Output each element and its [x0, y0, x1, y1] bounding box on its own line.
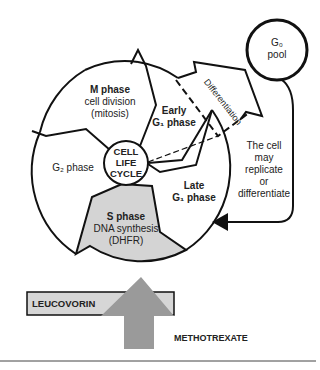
early-g1-line-2: G₁ phase [148, 117, 200, 129]
methotrexate-label: METHOTREXATE [174, 332, 248, 344]
side-note-line-1: The cell [236, 140, 292, 152]
g2-phase-label: G₂ phase [48, 162, 98, 174]
side-note: The cell may replicate or differentiate [236, 140, 292, 200]
s-phase-line-2: (DHFR) [90, 235, 162, 247]
early-g1-label: Early G₁ phase [148, 105, 200, 129]
center-label-line-1: CELL [108, 146, 144, 157]
late-g1-line-2: G₁ phase [168, 192, 220, 204]
return-arrowhead-icon [212, 213, 228, 231]
m-phase-title: M phase [70, 84, 150, 96]
s-phase-line-1: DNA synthesis [90, 223, 162, 235]
outer-cycle-ring [85, 61, 138, 70]
m-phase-line-1: cell division [70, 96, 150, 108]
side-note-line-3: replicate [236, 164, 292, 176]
side-note-line-5: differentiate [236, 188, 292, 200]
center-label-line-3: CYCLE [108, 168, 144, 179]
side-note-line-2: may [236, 152, 292, 164]
s-phase-label: S phase DNA synthesis (DHFR) [90, 211, 162, 247]
side-note-line-4: or [236, 176, 292, 188]
g0-pool-label: G₀ pool [257, 37, 297, 61]
m-phase-line-2: (mitosis) [70, 108, 150, 120]
leucovorin-label: LEUCOVORIN [32, 298, 95, 310]
g0-line-1: G₀ [257, 37, 297, 49]
s-phase-title: S phase [90, 211, 162, 223]
m-phase-label: M phase cell division (mitosis) [70, 84, 150, 120]
early-g1-line-1: Early [148, 105, 200, 117]
late-g1-label: Late G₁ phase [168, 180, 220, 204]
late-g1-line-1: Late [168, 180, 220, 192]
center-label-line-2: LIFE [108, 157, 144, 168]
g0-line-2: pool [257, 49, 297, 61]
g2-m-boundary [32, 129, 118, 157]
methotrexate-arrow [101, 277, 174, 349]
center-label: CELL LIFE CYCLE [108, 146, 144, 179]
